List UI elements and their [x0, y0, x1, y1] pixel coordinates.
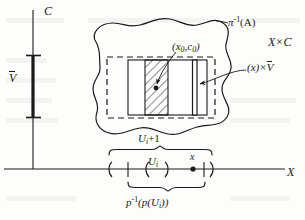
u-i-plus-1-label: Ui+1: [138, 133, 160, 146]
slice-band: [193, 60, 198, 115]
slice-prefix: (x)×: [247, 61, 267, 73]
base-point-open: (x: [172, 40, 181, 52]
slice-label: (x)×V: [247, 62, 273, 73]
x-axis-label: X: [287, 166, 294, 178]
covering-space-figure: C V X X×C π-1(A) (x0,c0) (x)×V Ui+1 Ui x…: [0, 0, 305, 220]
slice-vbar: V: [267, 62, 274, 73]
base-point-dot: [154, 86, 159, 91]
x-axis-point-dot: [190, 166, 195, 171]
u-i-plus-1-tail: +1: [148, 132, 160, 144]
u-i-plus-1-brace: [109, 146, 212, 155]
u-i-label: Ui: [148, 156, 158, 169]
product-space-label: X×C: [268, 36, 291, 48]
pi-inverse-a-label: π-1(A): [228, 16, 255, 28]
base-point-mid: ,c: [185, 40, 193, 52]
vbar-label-text: V: [9, 72, 16, 84]
figure-canvas: [0, 0, 305, 220]
c-axis-label: C: [44, 5, 52, 17]
base-point-label: (x0,c0): [172, 41, 200, 54]
x-point-label: x: [190, 152, 194, 162]
p-inverse-p-u-i-brace: [128, 182, 205, 191]
u-i-sub: i: [156, 160, 158, 169]
pi-argument: (A): [240, 16, 255, 28]
p-open: (p(U: [138, 196, 159, 208]
u-i-plus-1-base: U: [138, 132, 146, 144]
p-close: )): [161, 196, 168, 208]
u-i-base: U: [148, 155, 156, 167]
base-point-close: ): [196, 40, 200, 52]
vbar-label: V: [9, 72, 16, 84]
p-inverse-p-u-i-label: p-1(p(Ui)): [126, 196, 168, 210]
